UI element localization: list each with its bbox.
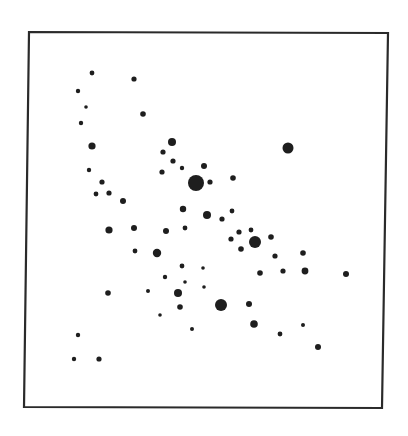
data-point	[88, 142, 95, 149]
data-point	[183, 226, 188, 231]
data-point	[207, 179, 212, 184]
data-point	[180, 166, 184, 170]
data-point	[219, 216, 224, 221]
data-point	[163, 228, 169, 234]
data-point	[283, 143, 294, 154]
data-point	[146, 289, 150, 293]
data-point	[190, 327, 194, 331]
data-point	[84, 105, 88, 109]
data-point	[159, 169, 164, 174]
data-point	[272, 253, 277, 258]
data-point	[238, 246, 244, 252]
data-point	[250, 320, 258, 328]
data-point	[153, 249, 161, 257]
data-point	[168, 138, 176, 146]
data-point	[280, 268, 285, 273]
data-point	[236, 229, 241, 234]
data-point	[174, 289, 182, 297]
data-point	[158, 313, 162, 317]
data-point	[140, 111, 146, 117]
data-point	[249, 236, 261, 248]
data-point	[201, 163, 207, 169]
data-point	[302, 268, 309, 275]
data-point	[230, 209, 235, 214]
data-points-layer	[72, 71, 349, 362]
data-point	[249, 228, 254, 233]
data-point	[343, 271, 349, 277]
data-point	[106, 190, 111, 195]
data-point	[105, 226, 112, 233]
data-point	[90, 71, 95, 76]
data-point	[203, 211, 211, 219]
data-point	[170, 158, 175, 163]
data-point	[72, 357, 76, 361]
data-point	[177, 304, 183, 310]
data-point	[301, 323, 305, 327]
data-point	[230, 175, 236, 181]
bubble-scatter-chart	[0, 0, 408, 436]
data-point	[188, 175, 204, 191]
data-point	[180, 264, 185, 269]
data-point	[76, 333, 80, 337]
data-point	[163, 275, 167, 279]
plot-frame	[24, 32, 388, 408]
data-point	[278, 332, 283, 337]
data-point	[94, 192, 99, 197]
data-point	[315, 344, 321, 350]
data-point	[87, 168, 91, 172]
data-point	[183, 280, 187, 284]
data-point	[133, 249, 138, 254]
data-point	[201, 266, 205, 270]
data-point	[202, 285, 206, 289]
data-point	[131, 225, 137, 231]
data-point	[120, 198, 126, 204]
data-point	[79, 121, 83, 125]
data-point	[180, 206, 186, 212]
data-point	[96, 356, 101, 361]
data-point	[300, 250, 306, 256]
data-point	[228, 236, 233, 241]
data-point	[131, 76, 136, 81]
data-point	[105, 290, 111, 296]
data-point	[215, 299, 227, 311]
data-point	[99, 179, 104, 184]
data-point	[76, 89, 80, 93]
data-point	[257, 270, 263, 276]
data-point	[268, 234, 274, 240]
data-point	[246, 301, 252, 307]
data-point	[160, 149, 165, 154]
